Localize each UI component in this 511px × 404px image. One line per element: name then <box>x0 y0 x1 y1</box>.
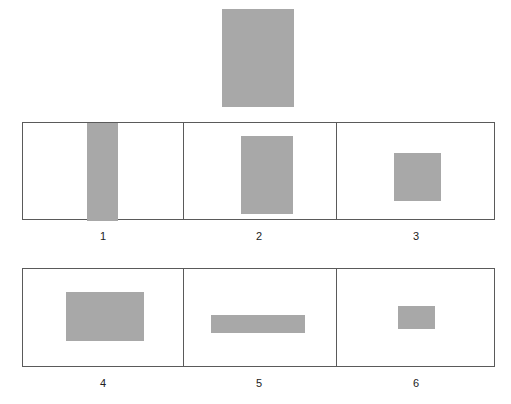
option-panel-5[interactable] <box>183 269 335 366</box>
shape-rect-5 <box>211 315 305 333</box>
shape-rect-1 <box>87 123 118 221</box>
panel-caption-1: 1 <box>83 231 123 242</box>
panel-caption-3: 3 <box>396 231 436 242</box>
option-panel-4[interactable] <box>23 269 183 366</box>
option-panel-6[interactable] <box>336 269 494 366</box>
figure-canvas: 123456 <box>0 0 511 404</box>
panel-caption-5: 5 <box>239 378 279 389</box>
shape-rect-4 <box>66 292 144 341</box>
row-bottom <box>22 268 495 367</box>
option-panel-1[interactable] <box>23 123 183 219</box>
option-panel-2[interactable] <box>183 123 335 219</box>
shape-rect-3 <box>394 153 441 201</box>
row-top <box>22 122 495 220</box>
option-panel-3[interactable] <box>336 123 494 219</box>
panel-caption-6: 6 <box>396 378 436 389</box>
reference-rectangle <box>222 9 294 107</box>
panel-caption-2: 2 <box>239 231 279 242</box>
shape-rect-6 <box>398 306 435 329</box>
shape-rect-2 <box>241 136 293 214</box>
panel-caption-4: 4 <box>83 378 123 389</box>
